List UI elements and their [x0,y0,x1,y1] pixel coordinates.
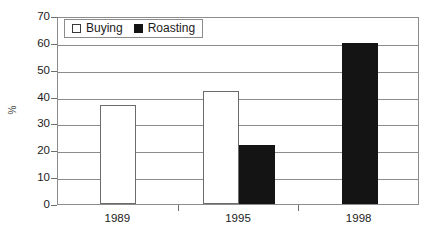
y-axis-tick-label: 40 [24,92,50,104]
legend-swatch-buying-icon [72,24,81,33]
legend-label: Roasting [148,22,195,34]
x-axis-tick-mark [178,205,179,211]
y-axis-tick-label: 70 [24,11,50,23]
y-axis-tick-labels: 010203040506070 [22,0,50,234]
y-axis-tick-label: 0 [24,199,50,211]
y-axis-tick-label: 60 [24,38,50,50]
bar-buying-1995 [203,91,239,204]
y-axis-tick-label: 20 [24,146,50,158]
bar-roasting-1998 [342,43,378,204]
y-axis-tick-label: 30 [24,119,50,131]
legend-entry-roasting: Roasting [134,22,195,34]
legend-swatch-roasting-icon [134,24,143,33]
bar-roasting-1995 [239,145,275,204]
plot-area [57,17,419,205]
y-axis-tick-mark [51,205,57,206]
y-axis-tick-label: 10 [24,172,50,184]
legend-entry-buying: Buying [72,22,123,34]
x-axis-tick-mark [298,205,299,211]
x-axis-tick-label-1989: 1989 [105,212,131,224]
x-axis-tick-label-1995: 1995 [225,212,251,224]
legend-label: Buying [86,22,123,34]
bar-buying-1989 [100,105,136,204]
chart-legend: BuyingRoasting [64,19,203,38]
x-axis-tick-label-1998: 1998 [346,212,372,224]
y-axis-label: % [3,101,23,119]
y-axis-tick-label: 50 [24,65,50,77]
bar-chart: % 010203040506070 198919951998 BuyingRoa… [0,0,432,234]
